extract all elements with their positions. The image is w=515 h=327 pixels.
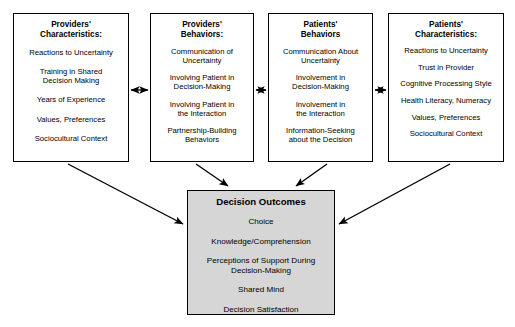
box-decision-outcomes: Decision Outcomes Choice Knowledge/Compr… (187, 190, 335, 315)
diagram-canvas: Providers' Characteristics: Reactions to… (0, 0, 515, 327)
box-patients-characteristics: Patients' Characteristics: Reactions to … (388, 13, 504, 162)
box-item: Trust in Provider (418, 63, 474, 72)
box-providers-behaviors: Providers' Behaviors: Communication of U… (150, 13, 254, 162)
box-item: Involving Patient in the Interaction (170, 100, 235, 118)
box-item: Communication About Uncertainty (283, 47, 358, 65)
box-item: Values, Preferences (37, 115, 106, 124)
box-item: Choice (248, 217, 273, 227)
box-item: Health Literacy, Numeracy (401, 96, 491, 105)
box-item: Cognitive Processing Style (400, 79, 491, 88)
box-patients-behaviors: Patients' Behaviors Communication About … (268, 13, 373, 162)
connector-providers-behaviors-to-outcomes (196, 164, 228, 186)
box-providers-characteristics: Providers' Characteristics: Reactions to… (13, 13, 129, 162)
connector-providers-characteristics-to-outcomes (68, 164, 183, 224)
box-item: Knowledge/Comprehension (211, 237, 310, 247)
box-title: Patients' Behaviors (301, 20, 341, 39)
box-item: Sociocultural Context (35, 134, 108, 143)
box-item: Involvement in Decision-Making (292, 73, 349, 91)
box-item: Training in Shared Decision Making (40, 67, 103, 85)
connector-patients-behaviors-to-outcomes (296, 164, 327, 186)
box-item: Decision Satisfaction (223, 305, 298, 315)
box-item: Values, Preferences (412, 113, 481, 122)
box-item: Shared Mind (238, 285, 284, 295)
box-item: Involvement in the Interaction (296, 100, 346, 118)
box-title: Decision Outcomes (216, 196, 306, 207)
box-item: Involving Patient in Decision-Making (170, 73, 235, 91)
box-title: Providers' Behaviors: (181, 20, 223, 39)
box-title: Patients' Characteristics: (415, 20, 477, 39)
box-title: Providers' Characteristics: (40, 20, 102, 39)
box-item: Years of Experience (37, 95, 106, 104)
box-item: Information-Seeking about the Decision (286, 126, 355, 144)
box-item: Reactions to Uncertainty (404, 46, 488, 55)
box-item: Perceptions of Support During Decision-M… (207, 256, 315, 275)
box-item: Partnership-Building Behaviors (167, 126, 236, 144)
box-item: Reactions to Uncertainty (29, 48, 113, 57)
box-item: Communication of Uncertainty (171, 47, 233, 65)
box-item: Sociocultural Context (410, 129, 483, 138)
connector-patients-characteristics-to-outcomes (339, 164, 450, 224)
